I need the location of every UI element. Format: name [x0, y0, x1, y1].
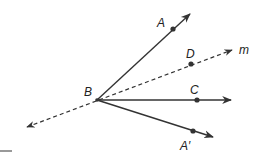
label-A-prime: A′ [179, 139, 191, 153]
label-A: A [156, 16, 165, 30]
point-C [194, 97, 199, 102]
ray-BA-prime [97, 100, 213, 137]
point-A [170, 26, 175, 31]
label-C: C [190, 83, 199, 97]
line-m-group [27, 50, 232, 127]
geometry-diagram: DmACA′B [0, 0, 260, 154]
rays-group [97, 14, 231, 137]
point-B [95, 98, 99, 102]
ray-BA [97, 14, 190, 100]
point-D [188, 61, 193, 66]
label-D: D [186, 47, 195, 61]
points-group [95, 26, 199, 133]
point-A-prime [190, 128, 195, 133]
label-m: m [239, 43, 249, 57]
line-m [27, 50, 232, 127]
label-B: B [84, 85, 92, 99]
